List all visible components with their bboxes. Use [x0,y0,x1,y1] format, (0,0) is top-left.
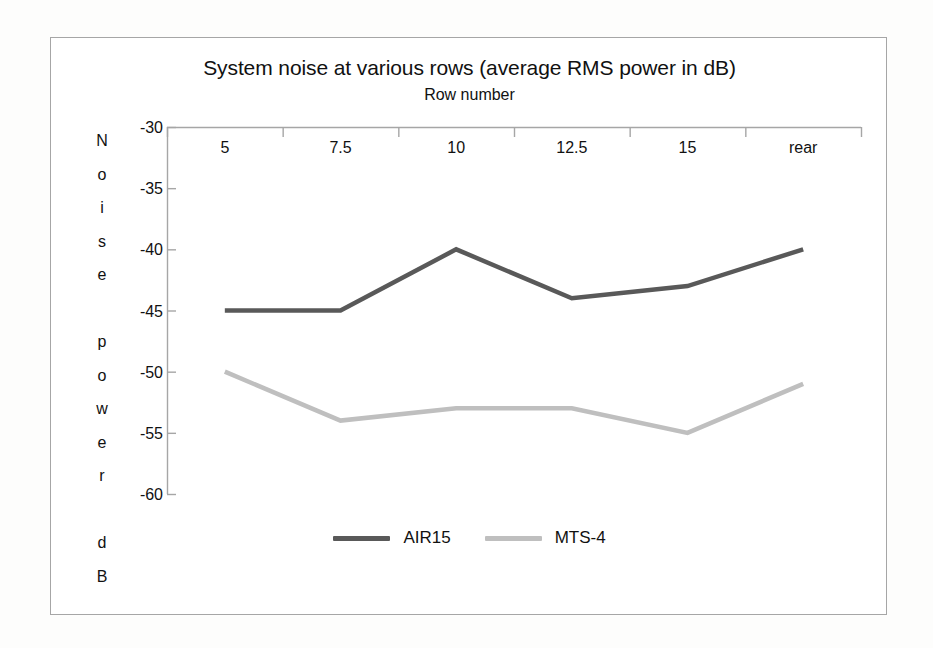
legend-label-air15: AIR15 [403,528,450,548]
legend-entry-air15: AIR15 [333,528,450,548]
y-axis-title-letter: w [96,392,108,426]
legend-label-mts-4: MTS-4 [555,528,606,548]
y-axis-tick-label: -50 [140,364,163,382]
chart-legend: AIR15MTS-4 [51,528,888,548]
y-axis-tick-label: -45 [140,303,163,321]
line-chart-svg [167,127,861,494]
x-axis-title: Row number [51,86,888,104]
y-axis-title-letter: e [98,258,107,292]
chart-title: System noise at various rows (average RM… [51,56,888,80]
y-axis-title: Noise.power.dB [91,124,113,593]
legend-entry-mts-4: MTS-4 [485,528,606,548]
y-axis-tick-label: -40 [140,241,163,259]
y-axis-tick-label: -60 [140,486,163,504]
chart-frame: System noise at various rows (average RM… [50,37,887,615]
y-axis-title-letter: p [98,325,107,359]
y-axis-tick-label: -30 [140,119,163,137]
y-axis-tick-label: -35 [140,180,163,198]
y-axis-title-letter: s [98,225,106,259]
plot-area [167,127,861,494]
y-axis-title-letter: o [98,359,107,393]
y-axis-title-letter: B [97,560,108,594]
series-lines [225,249,803,432]
legend-swatch-mts-4 [485,536,542,541]
series-line-air15 [225,249,803,310]
y-axis-title-letter: e [98,426,107,460]
y-axis-title-letter: r [99,459,104,493]
y-axis-title-letter: o [98,158,107,192]
series-line-mts-4 [225,372,803,433]
y-axis-title-letter: N [96,124,108,158]
y-axis-title-letter: i [100,191,104,225]
y-axis-tick-labels: -30-35-40-45-50-55-60 [113,127,163,494]
y-axis-tick-label: -55 [140,425,163,443]
legend-swatch-air15 [333,536,390,541]
